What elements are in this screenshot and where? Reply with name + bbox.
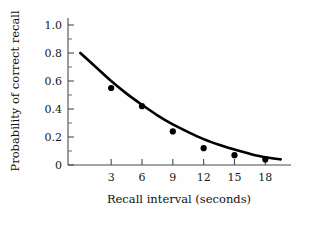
y-tick-label: 0 bbox=[55, 159, 62, 172]
x-axis-title: Recall interval (seconds) bbox=[107, 192, 251, 206]
data-point bbox=[108, 85, 114, 91]
x-tick-label: 6 bbox=[138, 171, 145, 184]
x-tick-label: 12 bbox=[197, 171, 211, 184]
y-tick-label: 0.8 bbox=[45, 47, 63, 60]
x-tick-label: 15 bbox=[227, 171, 241, 184]
chart-canvas: 00.20.40.60.81.0 369121518 Recall interv… bbox=[0, 0, 309, 226]
y-tick-label: 1.0 bbox=[45, 19, 63, 32]
x-tick-label: 9 bbox=[169, 171, 176, 184]
y-tick-label: 0.4 bbox=[45, 103, 63, 116]
data-point bbox=[262, 156, 268, 162]
y-axis-title: Probability of correct recall bbox=[8, 10, 22, 172]
x-tick-label: 18 bbox=[258, 171, 272, 184]
y-tick-label: 0.6 bbox=[45, 75, 63, 88]
recall-probability-chart: 00.20.40.60.81.0 369121518 Recall interv… bbox=[0, 0, 309, 226]
data-point bbox=[139, 103, 145, 109]
y-tick-label: 0.2 bbox=[45, 131, 63, 144]
data-point bbox=[170, 128, 176, 134]
data-point bbox=[201, 145, 207, 151]
x-tick-label: 3 bbox=[108, 171, 115, 184]
data-point bbox=[231, 152, 237, 158]
